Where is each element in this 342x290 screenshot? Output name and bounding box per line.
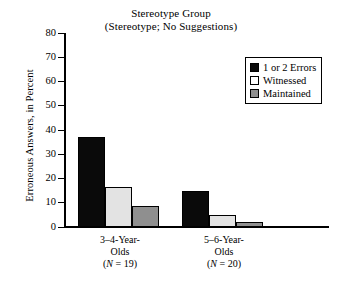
group-label-line1: 3–4-Year-: [74, 234, 166, 246]
black-swatch-icon: [250, 63, 259, 72]
group-label-sample-size: (N = 20): [178, 258, 270, 270]
y-axis-tick: [58, 81, 64, 82]
x-axis-group-label: 3–4-Year-Olds(N = 19): [74, 234, 166, 270]
y-axis-tick-label-wrap: 80: [28, 28, 56, 38]
y-axis-tick-label-wrap: 20: [28, 173, 56, 183]
bar-2-1: [182, 191, 209, 227]
y-axis-tick-label-wrap: 40: [28, 125, 56, 135]
bar-2-3: [236, 222, 263, 227]
group-label-line1: 5–6-Year-: [178, 234, 270, 246]
y-axis-tick-label-wrap: 70: [28, 52, 56, 62]
y-axis-tick-label-wrap: 10: [28, 197, 56, 207]
y-axis-tick-label: 40: [32, 125, 56, 135]
y-axis-tick-label: 80: [32, 28, 56, 38]
y-axis-tick-label: 60: [32, 76, 56, 86]
chart-legend: 1 or 2 Errors Witnessed Maintained: [245, 57, 322, 104]
y-axis-tick: [58, 105, 64, 106]
y-axis-tick-label: 0: [32, 222, 56, 232]
y-axis-tick-label-wrap: 60: [28, 76, 56, 86]
y-axis-tick-label: 70: [32, 52, 56, 62]
bar-1-1: [78, 137, 105, 227]
x-axis-group-label: 5–6-Year-Olds(N = 20): [178, 234, 270, 270]
legend-item: Witnessed: [250, 74, 316, 87]
y-axis-tick: [58, 130, 64, 131]
group-label-sample-size: (N = 19): [74, 258, 166, 270]
legend-item: 1 or 2 Errors: [250, 61, 316, 74]
y-axis-tick-label-wrap: 0: [28, 222, 56, 232]
y-axis-tick-label-wrap: 30: [28, 149, 56, 159]
y-axis-tick: [58, 33, 64, 34]
y-axis-tick: [58, 202, 64, 203]
bar-1-2: [105, 187, 132, 227]
y-axis-tick: [58, 227, 64, 228]
y-axis-tick: [58, 57, 64, 58]
group-label-line2: Olds: [178, 246, 270, 258]
y-axis-tick-label-wrap: 50: [28, 100, 56, 110]
bar-2-2: [209, 215, 236, 227]
legend-item: Maintained: [250, 87, 316, 100]
y-axis-tick: [58, 178, 64, 179]
y-axis-tick: [58, 154, 64, 155]
legend-item-label: Maintained: [263, 88, 311, 99]
group-label-line2: Olds: [74, 246, 166, 258]
y-axis-tick-label: 20: [32, 173, 56, 183]
bar-chart: Stereotype Group (Stereotype; No Suggest…: [0, 0, 342, 290]
bar-1-3: [132, 206, 159, 227]
y-axis-tick-label: 50: [32, 100, 56, 110]
y-axis-tick-label: 10: [32, 197, 56, 207]
gray-swatch-icon: [250, 89, 259, 98]
legend-item-label: Witnessed: [263, 75, 306, 86]
y-axis-tick-label: 30: [32, 149, 56, 159]
white-swatch-icon: [250, 76, 259, 85]
chart-title-line1: Stereotype Group: [131, 7, 211, 19]
legend-item-label: 1 or 2 Errors: [263, 62, 316, 73]
